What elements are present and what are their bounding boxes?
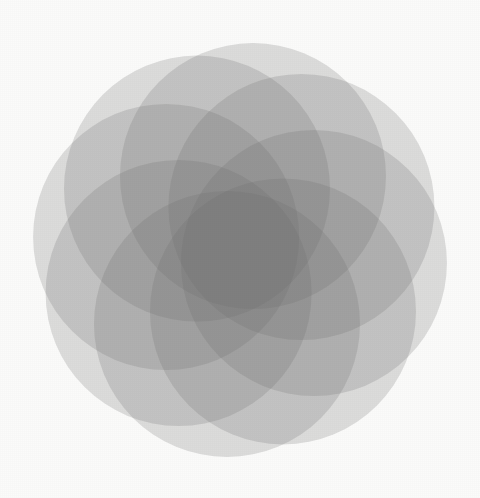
rosette-figure bbox=[0, 0, 480, 498]
rosette-circle-8 bbox=[64, 56, 330, 322]
figure-canvas bbox=[0, 0, 480, 498]
circle-group bbox=[33, 43, 447, 457]
